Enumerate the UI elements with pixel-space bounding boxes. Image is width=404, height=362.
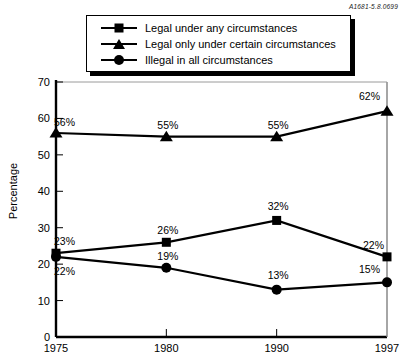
y-axis-tick-label: 30 [24, 223, 50, 234]
y-axis-tick-label: 70 [24, 77, 50, 88]
data-point-label: 32% [268, 201, 289, 212]
data-point-label: 56% [54, 117, 75, 128]
y-axis-tick-label: 50 [24, 150, 50, 161]
data-point-label: 13% [268, 270, 289, 281]
data-point-label: 23% [54, 236, 75, 247]
x-axis-tick-label: 1990 [247, 343, 307, 354]
data-point-label: 22% [363, 240, 384, 251]
chart-svg [0, 0, 404, 362]
data-point-label: 22% [54, 266, 75, 277]
y-axis-tick-label: 60 [24, 113, 50, 124]
data-point-label: 62% [359, 91, 380, 102]
y-axis-tick-label: 10 [24, 296, 50, 307]
data-point-label: 15% [359, 264, 380, 275]
y-axis-tick-label: 20 [24, 259, 50, 270]
data-point-label: 55% [268, 120, 289, 131]
data-point-label: 26% [157, 225, 178, 236]
chart-plot-area: Percentage 01020304050607019751980199019… [0, 0, 404, 362]
x-axis-tick-label: 1975 [26, 343, 86, 354]
data-point-label: 55% [157, 120, 178, 131]
x-axis-tick-label: 1997 [357, 343, 404, 354]
x-axis-tick-label: 1980 [136, 343, 196, 354]
data-point-label: 19% [157, 251, 178, 262]
y-axis-tick-label: 40 [24, 186, 50, 197]
